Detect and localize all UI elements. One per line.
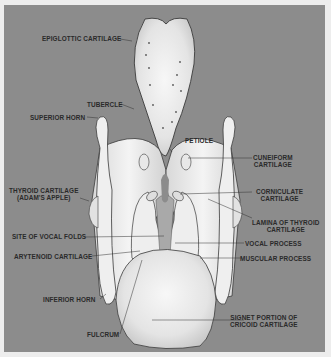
label-fulcrum: FULCRUM [87, 331, 119, 338]
label-superior-horn: SUPERIOR HORN [30, 114, 85, 121]
epiglottis [134, 18, 194, 156]
label-corniculate-cartilage: CORNICULATE CARTILAGE [256, 188, 303, 202]
label-petiole: PETIOLE [185, 137, 213, 144]
cricoid-cartilage [116, 249, 216, 348]
label-lamina-of-thyroid: LAMINA OF THYROID CARTILAGE [252, 219, 320, 233]
label-signet-portion: SIGNET PORTION OF CRICOID CARTILAGE [230, 314, 298, 328]
label-thyroid-cartilage: THYROID CARTILAGE (ADAM'S APPLE) [9, 187, 79, 201]
label-tubercle: TUBERCLE [87, 101, 123, 108]
label-epiglottic-cartilage: EPIGLOTTIC CARTILAGE [42, 35, 121, 42]
cuneiform-right [181, 154, 191, 170]
label-vocal-process: VOCAL PROCESS [245, 240, 302, 247]
label-muscular-process: MUSCULAR PROCESS [240, 255, 311, 262]
cuneiform-left [139, 154, 149, 170]
label-inferior-horn: INFERIOR HORN [43, 296, 95, 303]
label-site-of-vocal-folds: SITE OF VOCAL FOLDS [12, 233, 86, 240]
label-arytenoid-cartilage: ARYTENOID CARTILAGE [14, 253, 92, 260]
label-cuneiform-cartilage: CUNEIFORM CARTILAGE [253, 154, 293, 168]
